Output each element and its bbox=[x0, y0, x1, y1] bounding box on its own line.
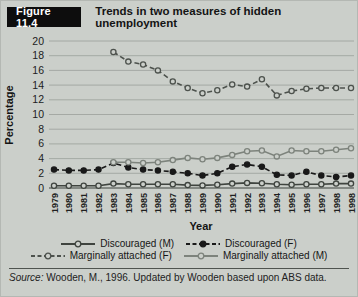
data-point-marker bbox=[96, 167, 101, 172]
y-axis-tick-labels: 02468101214161820 bbox=[32, 35, 44, 194]
x-axis-tick-labels: 1979198019811982198319841985198619871988… bbox=[50, 193, 357, 213]
x-tick-label: 1981 bbox=[79, 193, 89, 213]
data-point-marker bbox=[170, 158, 175, 163]
data-point-marker bbox=[289, 88, 294, 93]
y-axis-title: Percentage bbox=[3, 85, 15, 144]
legend-line-sample bbox=[186, 239, 220, 249]
data-point-marker bbox=[170, 79, 175, 84]
x-tick-label: 1985 bbox=[139, 193, 149, 213]
data-point-marker bbox=[334, 147, 339, 152]
y-tick-label: 10 bbox=[32, 108, 44, 120]
legend-label: Marginally attached (F) bbox=[70, 250, 172, 261]
data-point-marker bbox=[200, 183, 205, 188]
data-point-marker bbox=[319, 173, 324, 178]
x-axis-title: Year bbox=[189, 220, 213, 232]
data-point-marker bbox=[334, 181, 339, 186]
data-point-marker bbox=[348, 181, 353, 186]
x-tick-label: 1995 bbox=[287, 193, 297, 213]
data-point-marker bbox=[126, 160, 131, 165]
data-point-marker bbox=[126, 165, 131, 170]
data-point-marker bbox=[304, 86, 309, 91]
y-tick-label: 2 bbox=[38, 167, 44, 179]
y-tick-label: 0 bbox=[38, 182, 44, 194]
data-point-marker bbox=[126, 182, 131, 187]
data-point-marker bbox=[259, 148, 264, 153]
data-point-marker bbox=[230, 82, 235, 87]
x-tick-label: 1986 bbox=[153, 193, 163, 213]
chart-legend: Discouraged (M)Discouraged (F)Marginally… bbox=[19, 238, 339, 261]
data-point-marker bbox=[289, 173, 294, 178]
source-text: Wooden, M., 1996. Updated by Wooden base… bbox=[43, 272, 326, 283]
data-point-marker bbox=[274, 172, 279, 177]
data-point-marker bbox=[274, 154, 279, 159]
source-label: Source: bbox=[9, 272, 43, 283]
data-point-marker bbox=[170, 169, 175, 174]
data-point-marker bbox=[334, 174, 339, 179]
data-point-marker bbox=[289, 148, 294, 153]
data-point-marker bbox=[274, 93, 279, 98]
data-point-marker bbox=[185, 85, 190, 90]
data-point-marker bbox=[304, 182, 309, 187]
data-point-marker bbox=[319, 149, 324, 154]
data-point-marker bbox=[215, 88, 220, 93]
figure-title: Trends in two measures of hidden unemplo… bbox=[95, 7, 351, 27]
x-tick-label: 1984 bbox=[124, 193, 134, 213]
legend-label: Discouraged (M) bbox=[100, 238, 174, 249]
series-line bbox=[113, 52, 351, 95]
data-point-marker bbox=[81, 183, 86, 188]
data-point-marker bbox=[259, 77, 264, 82]
y-tick-label: 12 bbox=[32, 93, 44, 105]
y-tick-label: 20 bbox=[32, 35, 44, 47]
data-point-marker bbox=[185, 183, 190, 188]
legend-marker bbox=[45, 253, 51, 259]
data-point-marker bbox=[141, 182, 146, 187]
data-point-marker bbox=[348, 85, 353, 90]
data-point-marker bbox=[259, 164, 264, 169]
x-tick-label: 1983 bbox=[109, 193, 119, 213]
series-discouraged-f bbox=[51, 160, 353, 179]
data-point-marker bbox=[319, 85, 324, 90]
y-tick-label: 16 bbox=[32, 64, 44, 76]
data-point-marker bbox=[155, 168, 160, 173]
x-tick-label: 1996 bbox=[302, 193, 312, 213]
source-note: Source: Wooden, M., 1996. Updated by Woo… bbox=[9, 268, 349, 283]
data-point-marker bbox=[111, 160, 116, 165]
x-tick-label: 1990 bbox=[213, 193, 223, 213]
legend-item-marginally-attached-m: Marginally attached (M) bbox=[184, 250, 327, 261]
line-chart: 02468101214161820 1979198019811982198319… bbox=[1, 33, 358, 233]
data-point-marker bbox=[289, 182, 294, 187]
y-tick-label: 18 bbox=[32, 49, 44, 61]
data-point-marker bbox=[348, 146, 353, 151]
data-point-marker bbox=[111, 181, 116, 186]
data-point-marker bbox=[215, 171, 220, 176]
x-tick-label: 1987 bbox=[168, 193, 178, 213]
figure-panel: Figure 11.4 Trends in two measures of hi… bbox=[0, 0, 358, 297]
data-point-marker bbox=[185, 155, 190, 160]
legend-item-discouraged-m: Discouraged (M) bbox=[61, 238, 174, 249]
series-marginally-attached-m bbox=[111, 146, 354, 166]
data-point-marker bbox=[66, 168, 71, 173]
x-tick-label: 1998 bbox=[347, 193, 357, 213]
data-point-marker bbox=[111, 49, 116, 54]
chart-area: 02468101214161820 1979198019811982198319… bbox=[1, 33, 357, 237]
data-point-marker bbox=[319, 182, 324, 187]
data-point-marker bbox=[259, 181, 264, 186]
figure-number-badge: Figure 11.4 bbox=[7, 7, 81, 27]
data-point-marker bbox=[230, 152, 235, 157]
series-discouraged-m bbox=[51, 180, 353, 188]
data-point-marker bbox=[274, 182, 279, 187]
data-point-marker bbox=[81, 168, 86, 173]
x-tick-label: 1992 bbox=[243, 193, 253, 213]
legend-item-discouraged-f: Discouraged (F) bbox=[186, 238, 297, 249]
data-point-marker bbox=[170, 182, 175, 187]
data-point-marker bbox=[141, 160, 146, 165]
data-point-marker bbox=[215, 155, 220, 160]
gridlines bbox=[49, 41, 354, 188]
series-marginally-attached-f bbox=[111, 49, 354, 98]
legend-marker bbox=[198, 253, 204, 259]
data-point-marker bbox=[155, 182, 160, 187]
x-tick-label: 1991 bbox=[228, 193, 238, 213]
data-point-marker bbox=[66, 183, 71, 188]
data-point-marker bbox=[230, 164, 235, 169]
data-point-marker bbox=[96, 183, 101, 188]
